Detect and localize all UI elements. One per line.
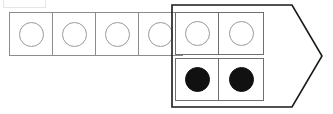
ring-icon [148,22,173,47]
arrow-block-top-row [175,12,264,55]
strip-cell-3[interactable] [96,13,139,55]
ring-icon [62,22,87,47]
ring-icon [185,21,210,46]
cut-off-element-fragment [3,0,46,8]
ring-icon [19,22,44,47]
cell-strip [9,12,183,56]
arrow-block-bottom-row [175,58,264,101]
diagram-canvas: Cell strip with arrow-shaped block [0,0,333,114]
strip-cell-1[interactable] [10,13,53,55]
diagram-title: Cell strip with arrow-shaped block [0,0,1,1]
arrow-block-cell-1-1[interactable] [176,13,219,54]
arrow-block-cell-2-2[interactable] [219,59,263,100]
arrow-block-cell-2-1[interactable] [176,59,219,100]
filled-dot-icon [229,67,254,92]
strip-cell-2[interactable] [53,13,96,55]
ring-icon [229,21,254,46]
arrow-block-grid [175,12,264,101]
filled-dot-icon [185,67,210,92]
arrow-block-cell-1-2[interactable] [219,13,263,54]
ring-icon [105,22,130,47]
